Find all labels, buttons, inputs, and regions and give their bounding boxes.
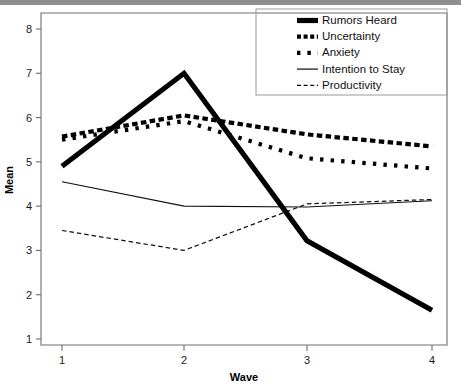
- y-tick-label: 1: [26, 333, 32, 345]
- x-axis-title: Wave: [230, 371, 258, 383]
- x-tick-label: 2: [181, 354, 187, 366]
- x-tick-label: 3: [304, 354, 310, 366]
- y-tick-label: 5: [26, 156, 32, 168]
- top-scan-bar: [0, 0, 461, 5]
- legend-label: Rumors Heard: [322, 14, 397, 26]
- y-tick-label: 4: [26, 200, 32, 212]
- legend-label: Uncertainty: [322, 30, 380, 42]
- y-axis-title: Mean: [3, 166, 15, 194]
- legend-label: Productivity: [322, 79, 382, 91]
- x-tick-label: 4: [429, 354, 435, 366]
- y-tick-label: 3: [26, 244, 32, 256]
- y-tick-label: 7: [26, 67, 32, 79]
- y-tick-label: 6: [26, 112, 32, 124]
- line-chart: 12345678 1234 Wave Mean Rumors HeardUnce…: [0, 0, 461, 386]
- chart-container: 12345678 1234 Wave Mean Rumors HeardUnce…: [0, 0, 461, 386]
- y-tick-label: 8: [26, 23, 32, 35]
- legend-label: Intention to Stay: [322, 63, 405, 75]
- y-tick-label: 2: [26, 289, 32, 301]
- x-tick-label: 1: [59, 354, 65, 366]
- legend-label: Anxiety: [322, 46, 360, 58]
